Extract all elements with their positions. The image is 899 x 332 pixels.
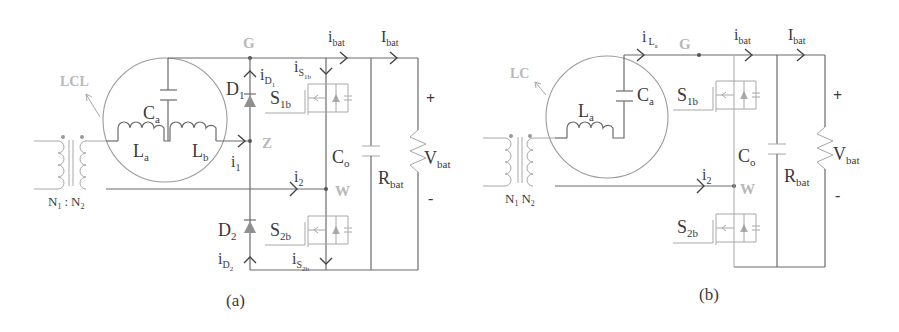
current-ibat-label: ibat bbox=[328, 28, 345, 48]
polarity-plus: + bbox=[426, 90, 435, 107]
transformer-a bbox=[34, 135, 106, 189]
inductor-la-label: La bbox=[133, 141, 149, 163]
polarity-plus-b: + bbox=[833, 87, 842, 104]
panel-b: N1N2 LC La Ca iLa G ibat Ibat i2 W bbox=[483, 26, 859, 304]
current-iS1b-label: iS1b bbox=[294, 58, 312, 81]
capacitor-co-label-b: Co bbox=[738, 146, 756, 168]
node-z-label: Z bbox=[262, 135, 272, 151]
transformer-ratio-label-b: N1N2 bbox=[505, 191, 535, 208]
current-Ibat-label-b: Ibat bbox=[788, 26, 806, 46]
panel-a: N1:N2 LCL Ca La Lb i1 i2 G ibat Ibat bbox=[34, 28, 450, 310]
current-i2-label: i2 bbox=[294, 168, 303, 188]
resistor-rbat-label-b: Rbat bbox=[784, 166, 809, 188]
caption-a: (a) bbox=[226, 291, 245, 310]
node-w-label: W bbox=[335, 183, 350, 199]
switch-s2b-label-b: S2b bbox=[677, 217, 699, 239]
lcl-filter-label: LCL bbox=[60, 74, 89, 89]
current-iD1-label: iD1 bbox=[260, 66, 276, 89]
current-i2-label-b: i2 bbox=[702, 166, 711, 186]
switch-s2b-label: S2b bbox=[270, 220, 292, 242]
capacitor-co-label: Co bbox=[332, 147, 350, 169]
lcl-filter-boundary bbox=[103, 58, 227, 182]
circuit-figure: N1:N2 LCL Ca La Lb i1 i2 G ibat Ibat bbox=[0, 0, 899, 332]
resistor-rbat-label: Rbat bbox=[378, 168, 403, 190]
current-Ibat-label: Ibat bbox=[381, 28, 399, 48]
voltage-vbat-label-b: Vbat bbox=[833, 144, 859, 166]
switch-s1b-label: S1b bbox=[270, 88, 292, 110]
inductor-lb-label: Lb bbox=[192, 141, 209, 163]
voltage-vbat-label: Vbat bbox=[424, 148, 450, 170]
polarity-minus: - bbox=[428, 190, 433, 207]
diode-d2-label: D2 bbox=[218, 220, 237, 242]
node-g-label: G bbox=[243, 35, 255, 51]
diode-d2 bbox=[244, 220, 256, 233]
diode-d1 bbox=[244, 94, 256, 107]
transformer-b bbox=[483, 134, 555, 186]
caption-b: (b) bbox=[699, 285, 719, 304]
diode-d1-label: D1 bbox=[226, 79, 245, 101]
current-i1-label: i1 bbox=[231, 153, 240, 173]
switch-s1b-label-b: S1b bbox=[677, 85, 699, 107]
current-ibat-label-b: ibat bbox=[734, 26, 751, 46]
capacitor-ca-label-b: Ca bbox=[637, 85, 654, 107]
current-iLa-label: iLa bbox=[642, 28, 659, 50]
polarity-minus-b: - bbox=[835, 187, 840, 204]
node-w-label-b: W bbox=[740, 181, 755, 197]
inductor-la-label-b: La bbox=[578, 101, 594, 123]
node-g-label-b: G bbox=[679, 36, 691, 52]
lc-filter-label: LC bbox=[510, 66, 529, 81]
capacitor-ca-label: Ca bbox=[143, 103, 160, 125]
lc-filter-boundary bbox=[546, 56, 668, 178]
current-iD2-label: iD2 bbox=[218, 250, 234, 273]
transformer-ratio-label: N1:N2 bbox=[48, 194, 84, 211]
